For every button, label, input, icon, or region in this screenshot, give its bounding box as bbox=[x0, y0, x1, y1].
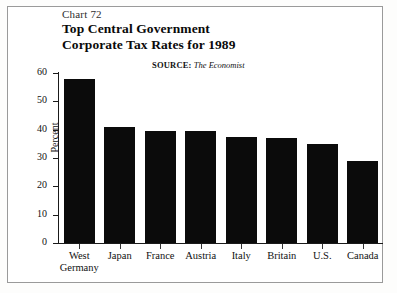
x-axis-label-line-2: Germany bbox=[59, 262, 100, 274]
bar-italy bbox=[226, 137, 257, 243]
x-axis-label: France bbox=[140, 250, 181, 274]
bar-slot bbox=[302, 73, 343, 243]
y-axis-tick-label: 40 bbox=[37, 123, 47, 134]
x-axis-tick-mark bbox=[160, 244, 161, 249]
x-axis-tick bbox=[181, 244, 222, 249]
y-axis-tick-label: 50 bbox=[37, 94, 47, 105]
bar-slot bbox=[262, 73, 303, 243]
x-axis-tick bbox=[302, 244, 343, 249]
bar-slot bbox=[181, 73, 222, 243]
x-axis-label: Austria bbox=[181, 250, 222, 274]
bar-canada bbox=[347, 161, 378, 243]
bar-britain bbox=[266, 138, 297, 243]
title-line-1: Top Central Government bbox=[62, 21, 210, 36]
chart-figure: Chart 72 Top Central Government Corporat… bbox=[0, 0, 397, 293]
x-axis-tick bbox=[59, 244, 100, 249]
x-axis-tick-mark bbox=[282, 244, 283, 249]
x-axis-label: Britain bbox=[262, 250, 303, 274]
x-axis-label-line-1: Japan bbox=[108, 250, 132, 261]
x-axis-tick-mark bbox=[241, 244, 242, 249]
bar-slot bbox=[221, 73, 262, 243]
x-axis-tick bbox=[140, 244, 181, 249]
x-axis-labels: WestGermanyJapanFranceAustriaItalyBritai… bbox=[59, 250, 383, 274]
bar-slot bbox=[140, 73, 181, 243]
y-axis-tick-label: 20 bbox=[37, 179, 47, 190]
x-axis-label-line-1: Britain bbox=[267, 250, 296, 261]
bar-series bbox=[59, 73, 383, 243]
x-axis-label: U.S. bbox=[302, 250, 343, 274]
y-axis-tick-label: 60 bbox=[37, 66, 47, 77]
x-axis-tick bbox=[221, 244, 262, 249]
x-axis-label-line-1: Austria bbox=[185, 250, 216, 261]
x-axis-label-line-1: Italy bbox=[232, 250, 251, 261]
bar-slot bbox=[343, 73, 384, 243]
x-axis-tick bbox=[343, 244, 384, 249]
x-axis-label: WestGermany bbox=[59, 250, 100, 274]
page-title: Top Central Government Corporate Tax Rat… bbox=[62, 21, 236, 53]
x-axis-ticks bbox=[59, 244, 383, 249]
x-axis-tick-mark bbox=[201, 244, 202, 249]
y-axis-tick-label: 30 bbox=[37, 151, 47, 162]
chart-number-label: Chart 72 bbox=[62, 8, 102, 20]
bar-west-germany bbox=[64, 79, 95, 243]
bar-slot bbox=[59, 73, 100, 243]
x-axis-tick-mark bbox=[79, 244, 80, 249]
x-axis-tick-mark bbox=[322, 244, 323, 249]
x-axis-tick-mark bbox=[120, 244, 121, 249]
source-label: SOURCE: bbox=[152, 60, 192, 70]
x-axis-tick bbox=[100, 244, 141, 249]
x-axis-tick bbox=[262, 244, 303, 249]
y-axis-tick-label: 10 bbox=[37, 208, 47, 219]
x-axis-label-line-1: France bbox=[146, 250, 175, 261]
x-axis-label-line-1: Canada bbox=[347, 250, 379, 261]
source-publication: The Economist bbox=[194, 60, 245, 70]
title-line-2: Corporate Tax Rates for 1989 bbox=[62, 37, 236, 53]
bar-u-s- bbox=[307, 144, 338, 243]
x-axis-tick-mark bbox=[363, 244, 364, 249]
bar-france bbox=[145, 131, 176, 243]
x-axis-label-line-1: West bbox=[69, 250, 90, 261]
x-axis-label: Canada bbox=[343, 250, 384, 274]
x-axis-label-line-1: U.S. bbox=[313, 250, 332, 261]
source-note: SOURCE: The Economist bbox=[152, 60, 245, 70]
x-axis-label: Japan bbox=[100, 250, 141, 274]
bar-slot bbox=[100, 73, 141, 243]
y-axis-tick-label: 0 bbox=[42, 236, 47, 247]
bar-japan bbox=[104, 127, 135, 243]
x-axis-label: Italy bbox=[221, 250, 262, 274]
bar-austria bbox=[185, 131, 216, 243]
